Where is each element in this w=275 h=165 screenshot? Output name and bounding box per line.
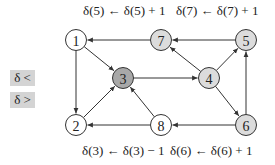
node-1: 1 bbox=[66, 30, 87, 51]
node-label: 6 bbox=[243, 119, 250, 134]
node-label: 8 bbox=[158, 119, 165, 134]
node-label: 2 bbox=[73, 119, 80, 134]
edge-8-to-3 bbox=[130, 87, 154, 117]
node-3: 3 bbox=[113, 68, 134, 89]
directed-graph: 17534286 bbox=[0, 0, 275, 165]
node-6: 6 bbox=[236, 115, 257, 136]
edge-4-to-5 bbox=[216, 48, 238, 70]
node-label: 4 bbox=[206, 72, 213, 87]
node-label: 1 bbox=[73, 34, 80, 49]
edge-1-to-3 bbox=[84, 47, 114, 71]
node-5: 5 bbox=[236, 30, 257, 51]
edge-4-to-6 bbox=[215, 86, 238, 116]
node-4: 4 bbox=[199, 68, 220, 89]
node-2: 2 bbox=[66, 115, 87, 136]
node-label: 5 bbox=[243, 34, 250, 49]
node-label: 3 bbox=[120, 72, 127, 87]
edge-4-to-7 bbox=[170, 47, 201, 71]
node-label: 7 bbox=[158, 34, 165, 49]
node-8: 8 bbox=[151, 115, 172, 136]
node-7: 7 bbox=[151, 30, 172, 51]
edge-2-to-3 bbox=[83, 86, 114, 117]
